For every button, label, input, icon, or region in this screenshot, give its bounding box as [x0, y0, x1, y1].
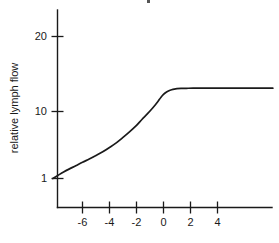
x-tick-label-0: 0: [160, 216, 166, 228]
y-tick-label-10: 10: [35, 105, 47, 117]
clipped-title-artifact: [147, 0, 150, 3]
y-tick-label-1: 1: [41, 172, 47, 184]
y-axis-title: relative lymph flow: [8, 63, 20, 154]
x-tick-label-minus2: -2: [132, 216, 142, 228]
x-tick-label-2: 2: [187, 216, 193, 228]
lymph-flow-curve: [53, 88, 273, 178]
y-tick-label-20: 20: [35, 30, 47, 42]
x-tick-label-4: 4: [214, 216, 220, 228]
chart-figure: 20 10 1 -6 -4 -2 0 2 4 relative lymph fl…: [0, 0, 279, 243]
line-chart: 20 10 1 -6 -4 -2 0 2 4 relative lymph fl…: [0, 0, 279, 243]
x-tick-label-minus4: -4: [105, 216, 115, 228]
x-tick-label-minus6: -6: [78, 216, 88, 228]
